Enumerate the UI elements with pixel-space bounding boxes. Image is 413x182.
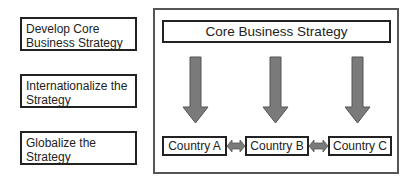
country-a-label: Country A bbox=[168, 139, 221, 153]
down-arrow-icon bbox=[263, 57, 288, 123]
down-arrow-icon bbox=[183, 57, 208, 123]
down-arrow-icon bbox=[345, 57, 370, 123]
country-c-box: Country C bbox=[328, 136, 392, 156]
country-b-box: Country B bbox=[245, 136, 309, 156]
country-c-label: Country C bbox=[333, 139, 387, 153]
country-a-box: Country A bbox=[162, 136, 227, 156]
double-arrow-icon bbox=[227, 140, 245, 152]
country-b-label: Country B bbox=[250, 139, 303, 153]
double-arrow-icon bbox=[309, 140, 328, 152]
